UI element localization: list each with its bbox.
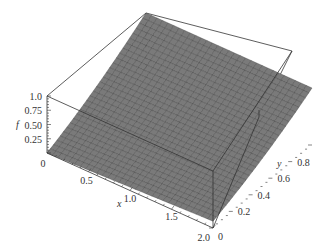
- x-axis-label: x: [116, 198, 122, 209]
- tick-label: 0.50: [25, 120, 43, 131]
- tick-label: 0: [218, 231, 223, 242]
- tick-label: 0.2: [238, 206, 251, 217]
- tick-label: 0.6: [277, 173, 290, 184]
- tick-label: 0.75: [25, 105, 43, 116]
- tick-label: 1.5: [165, 211, 178, 222]
- tick-label: 0.4: [258, 190, 271, 201]
- surface-plot: 0.250.500.751.0 f 00.51.01.52.0 x 00.20.…: [0, 0, 317, 242]
- tick-label: 1.0: [30, 91, 43, 102]
- tick-label: 0.8: [297, 157, 310, 168]
- tick-label: 0.5: [80, 175, 93, 186]
- surface-mesh: [47, 13, 312, 221]
- y-axis-label: y: [276, 158, 282, 169]
- tick-label: 2.0: [198, 232, 211, 242]
- tick-label: 1.0: [124, 193, 137, 204]
- tick-label: 0.25: [25, 134, 43, 145]
- f-axis-label: f: [16, 119, 20, 130]
- tick-label: 0: [41, 158, 46, 169]
